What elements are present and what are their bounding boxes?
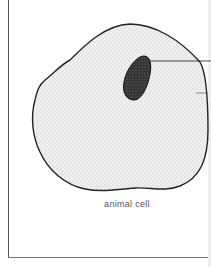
animal-cell-figure: [0, 0, 211, 267]
figure-caption: animal cell: [95, 199, 159, 209]
cell-membrane: [33, 24, 208, 191]
